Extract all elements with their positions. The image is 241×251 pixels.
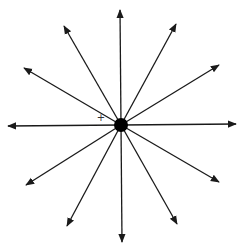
arrow-right-up-icon (121, 65, 219, 125)
arrow-left-icon (8, 125, 121, 126)
arrow-up-icon (120, 10, 121, 125)
arrow-left-up-icon (24, 68, 121, 125)
arrow-up-left-icon (64, 26, 121, 125)
arrow-right-down-icon (121, 125, 219, 182)
plus-marker: + (97, 112, 105, 123)
diagram-canvas: + (0, 0, 241, 251)
arrow-right-icon (121, 124, 236, 125)
radial-arrow-diagram: + (0, 0, 241, 251)
arrow-up-right-icon (121, 24, 176, 125)
arrow-down-right-icon (121, 125, 177, 224)
arrow-left-down-icon (26, 125, 121, 185)
arrow-down-icon (121, 125, 122, 242)
center-dot (114, 118, 128, 132)
arrow-down-left-icon (67, 125, 121, 226)
